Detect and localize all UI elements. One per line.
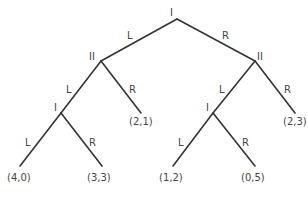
edge-label-right-ii-l: L <box>219 84 225 95</box>
edge-label-left-ii-r: R <box>129 84 136 95</box>
node-label-right-i: I <box>206 102 209 113</box>
node-label-right-ii: II <box>257 51 263 62</box>
payoff-leaf-6: (2,3) <box>283 116 307 127</box>
edge-label-right-i-l: L <box>178 137 184 148</box>
payoff-leaf-1: (4,0) <box>7 172 31 183</box>
edge-label-right-i-r: R <box>242 137 249 148</box>
node-label-left-i: I <box>54 102 57 113</box>
node-label-left-ii: II <box>89 51 95 62</box>
edge-label-left-i-l: L <box>25 137 31 148</box>
payoff-leaf-4: (1,2) <box>159 172 183 183</box>
edge-label-right-ii-r: R <box>284 84 291 95</box>
edge-root-right <box>177 19 255 61</box>
payoff-leaf-2: (3,3) <box>87 172 111 183</box>
edge-root-left <box>101 19 177 61</box>
edge-label-root-r: R <box>222 30 229 41</box>
edge-label-left-ii-l: L <box>66 84 72 95</box>
edge-label-root-l: L <box>127 30 133 41</box>
payoff-leaf-5: (0,5) <box>241 172 265 183</box>
node-label-root: I <box>170 7 173 18</box>
payoff-leaf-3: (2,1) <box>129 116 153 127</box>
game-tree-diagram: I II II I I L R L R L R L R L R (4,0) (3… <box>0 0 308 197</box>
edge-label-left-i-r: R <box>89 137 96 148</box>
